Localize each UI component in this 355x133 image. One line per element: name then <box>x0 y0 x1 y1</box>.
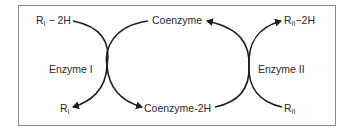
label-ri: RI <box>60 102 70 118</box>
label-enzyme-i: Enzyme I <box>49 63 93 75</box>
label-coenzyme-2h: Coenzyme-2H <box>144 102 211 114</box>
label-coenzyme: Coenzyme <box>152 14 202 26</box>
label-rii-2h: RII−2H <box>284 14 315 30</box>
arrow-coenzyme2h-to-coenzyme <box>207 21 249 107</box>
label-ri-2h: RI − 2H <box>36 14 71 30</box>
label-rii: RII <box>284 102 295 118</box>
label-enzyme-ii: Enzyme II <box>258 63 305 75</box>
arrow-coenzyme-to-coenzyme2h <box>106 21 148 107</box>
